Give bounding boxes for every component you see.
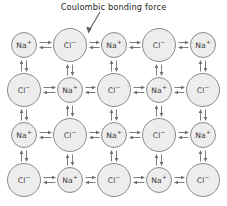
double-arrow-vertical-icon (108, 150, 120, 162)
double-arrow-horizontal-icon (43, 84, 56, 96)
ion-lattice: Na+Cl−Na+Cl−Na+Cl−Na+Cl−Na+Cl−Na+Cl−Na+C… (0, 0, 227, 206)
double-arrow-horizontal-icon (174, 174, 185, 186)
ion-label: Na+ (195, 130, 210, 139)
ion-label: Cl− (64, 130, 76, 139)
chloride-ion: Cl− (186, 163, 220, 197)
double-arrow-vertical-icon (197, 109, 209, 121)
chloride-ion: Cl− (53, 28, 87, 62)
sodium-ion: Na+ (57, 77, 83, 103)
double-arrow-vertical-icon (18, 109, 30, 121)
nacl-lattice-figure: Coulombic bonding force Na+Cl−Na+Cl−Na+C… (0, 0, 227, 206)
sodium-ion: Na+ (190, 122, 216, 148)
ion-label: Cl− (64, 40, 76, 49)
chloride-ion: Cl− (7, 163, 41, 197)
double-arrow-horizontal-icon (133, 174, 145, 186)
ion-label: Cl− (108, 175, 120, 184)
double-arrow-horizontal-icon (39, 39, 52, 51)
double-arrow-horizontal-icon (174, 84, 185, 96)
double-arrow-horizontal-icon (85, 84, 96, 96)
ion-label: Na+ (195, 40, 210, 49)
ion-label: Cl− (18, 175, 30, 184)
sodium-ion: Na+ (146, 167, 172, 193)
chloride-ion: Cl− (142, 28, 176, 62)
ion-label: Na+ (16, 40, 31, 49)
ion-label: Na+ (62, 175, 77, 184)
double-arrow-horizontal-icon (178, 129, 189, 141)
sodium-ion: Na+ (11, 122, 37, 148)
sodium-ion: Na+ (190, 32, 216, 58)
ion-label: Na+ (106, 40, 121, 49)
double-arrow-horizontal-icon (43, 174, 56, 186)
double-arrow-vertical-icon (64, 64, 76, 76)
double-arrow-vertical-icon (108, 60, 120, 72)
double-arrow-vertical-icon (64, 105, 76, 117)
double-arrow-vertical-icon (153, 64, 165, 76)
double-arrow-horizontal-icon (85, 174, 96, 186)
double-arrow-horizontal-icon (178, 39, 189, 51)
ion-label: Cl− (197, 85, 209, 94)
chloride-ion: Cl− (97, 73, 131, 107)
double-arrow-vertical-icon (153, 154, 165, 166)
chloride-ion: Cl− (186, 73, 220, 107)
double-arrow-vertical-icon (18, 60, 30, 72)
ion-label: Cl− (153, 130, 165, 139)
double-arrow-vertical-icon (108, 109, 120, 121)
ion-label: Na+ (151, 175, 166, 184)
double-arrow-vertical-icon (197, 60, 209, 72)
double-arrow-horizontal-icon (89, 39, 100, 51)
chloride-ion: Cl− (142, 118, 176, 152)
sodium-ion: Na+ (101, 122, 127, 148)
chloride-ion: Cl− (7, 73, 41, 107)
ion-label: Na+ (106, 130, 121, 139)
double-arrow-vertical-icon (153, 105, 165, 117)
sodium-ion: Na+ (101, 32, 127, 58)
ion-label: Cl− (108, 85, 120, 94)
ion-label: Na+ (16, 130, 31, 139)
double-arrow-horizontal-icon (129, 129, 141, 141)
sodium-ion: Na+ (146, 77, 172, 103)
chloride-ion: Cl− (97, 163, 131, 197)
double-arrow-vertical-icon (197, 150, 209, 162)
ion-label: Na+ (62, 85, 77, 94)
sodium-ion: Na+ (57, 167, 83, 193)
double-arrow-vertical-icon (18, 150, 30, 162)
sodium-ion: Na+ (11, 32, 37, 58)
chloride-ion: Cl− (53, 118, 87, 152)
double-arrow-horizontal-icon (129, 39, 141, 51)
double-arrow-horizontal-icon (133, 84, 145, 96)
double-arrow-vertical-icon (64, 154, 76, 166)
ion-label: Na+ (151, 85, 166, 94)
ion-label: Cl− (197, 175, 209, 184)
double-arrow-horizontal-icon (89, 129, 100, 141)
ion-label: Cl− (18, 85, 30, 94)
ion-label: Cl− (153, 40, 165, 49)
double-arrow-horizontal-icon (39, 129, 52, 141)
